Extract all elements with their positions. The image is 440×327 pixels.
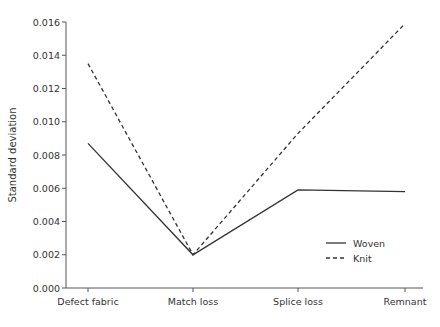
x-axis: Defect fabricMatch lossSplice lossRemnan… [57,288,426,307]
y-tick-label: 0.008 [33,150,60,161]
y-tick-label: 0.006 [33,183,60,194]
series-lines [88,24,405,255]
x-tick-label: Match loss [168,296,218,307]
y-tick-label: 0.012 [33,83,60,94]
line-chart: 0.0000.0020.0040.0060.0080.0100.0120.014… [0,0,440,327]
y-tick-label: 0.014 [33,50,60,61]
legend: WovenKnit [326,238,385,264]
y-tick-label: 0.002 [33,249,60,260]
y-tick-label: 0.010 [33,116,60,127]
y-axis-label: Standard deviation [7,107,18,202]
x-tick-label: Remnant [384,296,427,307]
y-axis: 0.0000.0020.0040.0060.0080.0100.0120.014… [33,17,66,294]
legend-label-knit: Knit [353,253,372,264]
series-knit-line [88,24,405,255]
legend-label-woven: Woven [353,238,385,249]
y-tick-label: 0.000 [33,283,60,294]
x-tick-label: Splice loss [273,296,323,307]
x-tick-label: Defect fabric [57,296,118,307]
y-tick-label: 0.004 [33,216,60,227]
y-tick-label: 0.016 [33,17,60,28]
